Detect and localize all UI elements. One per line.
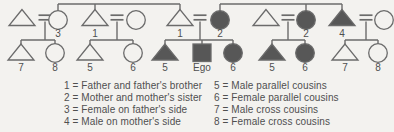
legend-item: 5 = Male parallel cousins: [214, 80, 339, 92]
person-p4-open-circle: [127, 11, 146, 30]
legend-item: 2 = Mother and mother's sister: [64, 92, 202, 104]
person-label: 8: [375, 62, 381, 73]
person-c11-open-circle: [369, 44, 388, 63]
person-label: 1: [177, 28, 183, 39]
legend-item: 4 = Male on mother's side: [64, 116, 202, 128]
person-p3-open-triangle: [82, 10, 108, 26]
person-p10-open-circle: [375, 11, 394, 30]
person-label: 7: [342, 62, 348, 73]
person-label: 6: [230, 62, 236, 73]
person-c10-open-triangle: [332, 44, 358, 60]
person-c8-filled-triangle: [259, 44, 285, 60]
legend-item: 8 = Female cross cousins: [214, 116, 339, 128]
person-p1-open-triangle: [9, 10, 35, 26]
legend-item: 7 = Male cross cousins: [214, 104, 339, 116]
person-p6-filled-circle: [211, 11, 230, 30]
person-label: 5: [87, 62, 93, 73]
person-p5-open-triangle: [167, 10, 193, 26]
person-c5-filled-triangle: [152, 44, 178, 60]
person-label: 3: [55, 28, 61, 39]
person-label: Ego: [193, 62, 211, 73]
person-label: 4: [339, 28, 345, 39]
person-label: 6: [130, 62, 136, 73]
person-label: 5: [162, 62, 168, 73]
person-label: 7: [18, 62, 24, 73]
person-c6-filled-square: [193, 44, 211, 62]
person-c3-open-triangle: [77, 44, 103, 60]
person-c2-open-circle: [46, 44, 65, 63]
person-label: 2: [303, 28, 309, 39]
person-c1-open-triangle: [8, 44, 34, 60]
legend-column-right: 5 = Male parallel cousins 6 = Female par…: [214, 80, 339, 128]
person-c7-filled-circle: [224, 44, 243, 63]
legend-column-left: 1 = Father and father's brother 2 = Moth…: [64, 80, 202, 128]
legend-item: 3 = Female on father's side: [64, 104, 202, 116]
person-label: 8: [52, 62, 58, 73]
person-label: 5: [269, 62, 275, 73]
person-p7-open-triangle: [253, 10, 279, 26]
person-p8-filled-circle: [297, 11, 316, 30]
person-p2-open-circle: [49, 11, 68, 30]
person-label: 1: [92, 28, 98, 39]
legend-item: 6 = Female parallel cousins: [214, 92, 339, 104]
person-label: 2: [217, 28, 223, 39]
person-c4-open-circle: [124, 44, 143, 63]
legend-item: 1 = Father and father's brother: [64, 80, 202, 92]
kinship-figure: 31122478565Ego65678 1 = Father and fathe…: [0, 0, 394, 132]
person-label: 6: [302, 62, 308, 73]
person-p9-filled-triangle: [329, 10, 355, 26]
person-c9-filled-circle: [296, 44, 315, 63]
kinship-diagram: 31122478565Ego65678: [0, 0, 394, 78]
